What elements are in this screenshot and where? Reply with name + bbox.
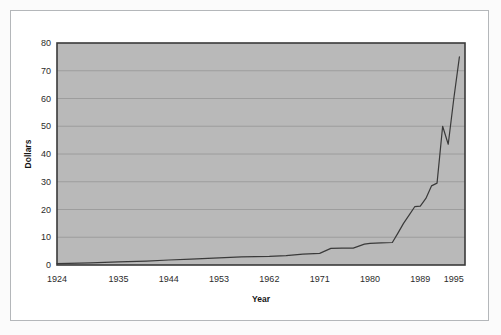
x-tick-label: 1924 [47, 274, 67, 284]
x-axis-title: Year [252, 294, 271, 304]
x-axis-tick-labels: 192419351944195319621971198019891995 [47, 274, 464, 284]
y-tick-label: 0 [46, 260, 51, 270]
y-axis-title: Dollars [23, 139, 33, 168]
y-tick-label: 60 [41, 94, 51, 104]
y-tick-label: 40 [41, 149, 51, 159]
y-tick-label: 30 [41, 177, 51, 187]
y-tick-label: 20 [41, 205, 51, 215]
x-tick-label: 1944 [159, 274, 179, 284]
y-tick-label: 80 [41, 38, 51, 48]
line-chart: 01020304050607080 1924193519441953196219… [0, 0, 501, 335]
x-tick-label: 1935 [108, 274, 128, 284]
chart-canvas: 01020304050607080 1924193519441953196219… [0, 0, 501, 335]
x-tick-label: 1962 [259, 274, 279, 284]
y-tick-label: 70 [41, 66, 51, 76]
y-axis-tick-labels: 01020304050607080 [41, 38, 51, 270]
y-tick-label: 10 [41, 232, 51, 242]
chart-figure: 01020304050607080 1924193519441953196219… [0, 0, 501, 335]
x-tick-label: 1995 [444, 274, 464, 284]
x-tick-label: 1980 [360, 274, 380, 284]
x-tick-label: 1971 [310, 274, 330, 284]
x-tick-label: 1989 [410, 274, 430, 284]
y-tick-label: 50 [41, 121, 51, 131]
x-tick-label: 1953 [209, 274, 229, 284]
